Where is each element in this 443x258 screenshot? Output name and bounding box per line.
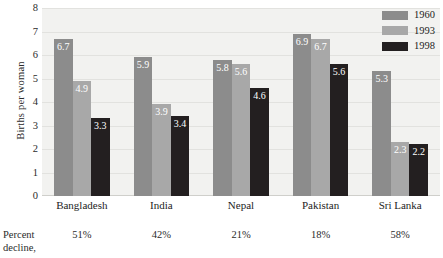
bar-sri-lanka-1998: 2.2: [409, 144, 428, 196]
bar-bangladesh-1960: 6.7: [54, 39, 73, 196]
bar-nepal-1993: 5.6: [232, 64, 251, 196]
bar-value-label: 2.2: [409, 147, 428, 157]
bar-value-label: 5.6: [232, 67, 251, 77]
bar-value-label: 6.7: [311, 42, 330, 52]
bar-pakistan-1993: 6.7: [311, 39, 330, 196]
bar-india-1960: 5.9: [134, 57, 153, 196]
y-axis-tick-8: 8: [24, 3, 38, 14]
percent-decline-value-india: 42%: [121, 228, 201, 241]
y-axis-tick-7: 7: [24, 26, 38, 37]
bar-group-india: 5.93.93.4: [134, 8, 190, 196]
bar-value-label: 4.9: [73, 84, 92, 94]
percent-decline-value-sri-lanka: 58%: [360, 228, 440, 241]
legend-label-1993: 1993: [414, 26, 435, 37]
bar-india-1993: 3.9: [152, 104, 171, 196]
bar-group-nepal: 5.85.64.6: [213, 8, 269, 196]
chart-legend: 196019931998: [382, 10, 435, 52]
bar-value-label: 3.3: [91, 121, 110, 131]
percent-decline-row: Percent decline, 51%42%21%18%58%: [0, 228, 443, 258]
y-axis-tick-1: 1: [24, 167, 38, 178]
bar-sri-lanka-1960: 5.3: [372, 71, 391, 196]
bar-groups: 6.74.93.35.93.93.45.85.64.66.96.75.65.32…: [42, 8, 440, 196]
y-axis-tick-labels: 876543210: [24, 8, 38, 196]
bar-chart: Births per woman 876543210 6.74.93.35.93…: [0, 0, 443, 258]
plot-area: 6.74.93.35.93.93.45.85.64.66.96.75.65.32…: [42, 8, 440, 196]
legend-swatch-icon-1998: [382, 42, 408, 51]
bar-value-label: 2.3: [391, 145, 410, 155]
percent-decline-value-nepal: 21%: [201, 228, 281, 241]
category-label-sri-lanka: Sri Lanka: [350, 200, 443, 211]
bar-bangladesh-1998: 3.3: [91, 118, 110, 196]
bar-sri-lanka-1993: 2.3: [391, 142, 410, 196]
legend-item-1993[interactable]: 1993: [382, 26, 435, 37]
bar-value-label: 3.9: [152, 107, 171, 117]
y-axis-tick-2: 2: [24, 144, 38, 155]
y-axis-tick-6: 6: [24, 50, 38, 61]
bar-nepal-1960: 5.8: [213, 60, 232, 196]
bar-india-1998: 3.4: [171, 116, 190, 196]
bar-value-label: 5.8: [213, 63, 232, 73]
bar-group-bangladesh: 6.74.93.3: [54, 8, 110, 196]
bar-value-label: 5.3: [372, 74, 391, 84]
y-axis-tick-5: 5: [24, 73, 38, 84]
bar-value-label: 5.6: [330, 67, 349, 77]
bar-nepal-1998: 4.6: [250, 88, 269, 196]
percent-decline-value-pakistan: 18%: [281, 228, 361, 241]
bar-group-pakistan: 6.96.75.6: [293, 8, 349, 196]
bar-value-label: 6.7: [54, 42, 73, 52]
x-axis-category-labels: BangladeshIndiaNepalPakistanSri Lanka: [42, 200, 440, 216]
bar-value-label: 3.4: [171, 119, 190, 129]
bar-pakistan-1998: 5.6: [330, 64, 349, 196]
y-axis-tick-4: 4: [24, 97, 38, 108]
bar-bangladesh-1993: 4.9: [73, 81, 92, 196]
y-axis-tick-3: 3: [24, 120, 38, 131]
legend-swatch-icon-1960: [382, 11, 408, 20]
bar-pakistan-1960: 6.9: [293, 34, 312, 196]
percent-decline-value-bangladesh: 51%: [42, 228, 122, 241]
legend-swatch-icon-1993: [382, 26, 408, 35]
bar-value-label: 6.9: [293, 37, 312, 47]
legend-item-1960[interactable]: 1960: [382, 10, 435, 21]
bar-value-label: 5.9: [134, 60, 153, 70]
bar-value-label: 4.6: [250, 91, 269, 101]
legend-label-1998: 1998: [414, 41, 435, 52]
legend-item-1998[interactable]: 1998: [382, 41, 435, 52]
legend-label-1960: 1960: [414, 10, 435, 21]
